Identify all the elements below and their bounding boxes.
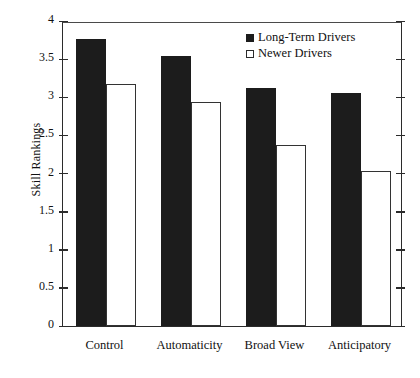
- legend-item-0: Long-Term Drivers: [246, 30, 355, 45]
- legend-swatch-open-icon: [246, 50, 254, 58]
- x-axis-label-3: Anticipatory: [317, 338, 402, 353]
- bar-newer-0: [106, 84, 136, 326]
- y-tick-label: 2: [48, 165, 54, 180]
- bar-long-term-0: [76, 39, 106, 326]
- y-tick-mark-left: [59, 326, 68, 327]
- legend-label: Long-Term Drivers: [258, 30, 355, 45]
- y-tick-mark-left: [59, 287, 68, 288]
- bar-chart-figure: Skill Rankings 00.511.522.533.54 Control…: [0, 0, 420, 378]
- y-tick-mark-left: [59, 97, 68, 98]
- y-tick-mark-left: [59, 59, 68, 60]
- y-tick-mark-right: [396, 135, 405, 136]
- y-tick-mark-right: [396, 287, 405, 288]
- y-tick-label: 0.5: [39, 279, 54, 294]
- bar-long-term-2: [246, 88, 276, 326]
- y-tick-label: 1.5: [39, 203, 54, 218]
- legend-item-1: Newer Drivers: [246, 46, 355, 61]
- bar-long-term-1: [161, 56, 191, 326]
- chart-legend: Long-Term DriversNewer Drivers: [246, 30, 355, 62]
- bar-newer-1: [191, 102, 221, 326]
- bar-newer-2: [276, 145, 306, 326]
- y-tick-mark-left: [59, 173, 68, 174]
- y-tick-mark-right: [396, 211, 405, 212]
- y-tick-label: 3: [48, 88, 54, 103]
- legend-label: Newer Drivers: [258, 46, 332, 61]
- y-tick-mark-right: [396, 173, 405, 174]
- y-tick-label: 4: [48, 12, 54, 27]
- legend-swatch-filled-icon: [246, 34, 254, 42]
- y-tick-label: 3.5: [39, 50, 54, 65]
- y-tick-mark-left: [59, 249, 68, 250]
- y-tick-mark-left: [59, 135, 68, 136]
- y-tick-mark-right: [396, 249, 405, 250]
- y-tick-label: 0: [48, 317, 54, 332]
- y-axis-label: Skill Rankings: [29, 100, 44, 220]
- y-tick-mark-right: [396, 97, 405, 98]
- bar-newer-3: [361, 171, 391, 326]
- x-axis-label-1: Automaticity: [147, 338, 232, 353]
- x-axis-label-2: Broad View: [232, 338, 317, 353]
- y-tick-label: 1: [48, 241, 54, 256]
- bar-long-term-3: [331, 93, 361, 326]
- y-tick-mark-right: [396, 326, 405, 327]
- plot-area: 00.511.522.533.54: [62, 22, 402, 327]
- y-tick-label: 2.5: [39, 126, 54, 141]
- x-axis-label-0: Control: [62, 338, 147, 353]
- y-tick-mark-left: [59, 211, 68, 212]
- y-tick-mark-right: [396, 21, 405, 22]
- y-tick-mark-right: [396, 59, 405, 60]
- y-tick-mark-left: [59, 21, 68, 22]
